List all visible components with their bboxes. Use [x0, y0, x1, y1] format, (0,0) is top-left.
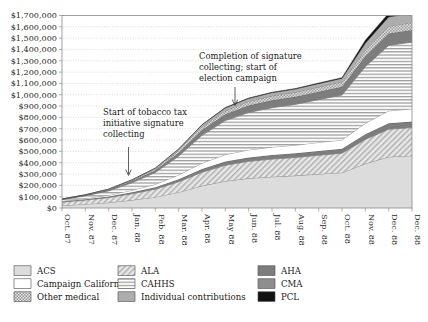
legend-label: ALA: [140, 266, 160, 276]
x-axis-label: Dec. 88: [413, 214, 423, 245]
legend-label: CAHHS: [141, 279, 175, 289]
y-axis-label: $500,000: [18, 146, 57, 156]
x-axis-labels: Oct. 87Nov. 87Dec. 87Jan. 88Feb. 88Mar. …: [63, 213, 423, 246]
x-axis-label: Oct. 88: [343, 214, 353, 244]
legend-label: ACS: [36, 266, 56, 276]
y-axis-label: $700,000: [18, 124, 57, 134]
x-axis-label: Sep. 88: [320, 214, 330, 245]
legend-label: Individual contributions: [141, 292, 246, 302]
x-axis-label: Jul. 88: [273, 213, 283, 241]
legend-label: AHA: [280, 266, 302, 276]
x-axis-label: Dec. 87: [110, 214, 120, 245]
y-axis-label: $1,600,000: [11, 22, 57, 32]
legend-item: CMA: [258, 279, 303, 289]
x-axis-label: Nov. 88: [367, 214, 377, 245]
legend: ACSCampaign CaliforniaOther medicalALACA…: [14, 266, 303, 302]
y-axis-label: $1,500,000: [11, 33, 57, 43]
legend-swatch-ala: [118, 266, 135, 276]
legend-item: ACS: [14, 266, 56, 276]
legend-swatch-cahhs: [118, 279, 135, 289]
legend-swatch-other-medical: [14, 292, 31, 302]
legend-label: PCL: [281, 292, 299, 302]
x-axis-label: Apr. 88: [203, 213, 213, 243]
y-axis-label: $1,100,000: [11, 78, 57, 88]
y-axis-label: $100,000: [18, 192, 57, 202]
x-axis-label: Feb. 88: [157, 214, 167, 245]
x-axis-ticks: [62, 208, 412, 212]
x-axis-label: Mar. 88: [180, 214, 190, 246]
y-axis-label: $1,700,000: [11, 10, 57, 20]
legend-item: Other medical: [14, 292, 99, 302]
legend-swatch-campaign-california: [14, 279, 31, 289]
y-axis-labels: $0$100,000$200,000$300,000$400,000$500,0…: [11, 10, 57, 213]
legend-item: AHA: [258, 266, 302, 276]
y-axis-label: $1,400,000: [11, 44, 57, 54]
legend-label: Campaign California: [37, 279, 127, 289]
legend-swatch-cma: [258, 279, 275, 289]
y-axis-label: $1,200,000: [11, 67, 57, 77]
figure-container: $0$100,000$200,000$300,000$400,000$500,0…: [0, 0, 428, 322]
legend-item: CAHHS: [118, 279, 175, 289]
y-axis-label: $800,000: [18, 112, 57, 122]
x-axis-label: Nov. 87: [87, 214, 97, 245]
y-axis-label: $300,000: [18, 169, 57, 179]
x-axis-label: Dec. 88: [390, 214, 400, 245]
legend-swatch-acs: [14, 266, 31, 276]
legend-label: CMA: [281, 279, 303, 289]
annotation-signature-start-line2: initiative signature: [103, 118, 184, 128]
annotation-signature-start-line3: collecting: [103, 129, 145, 139]
y-axis-ticks: [59, 16, 62, 209]
x-axis-label: Jan. 88: [133, 213, 143, 243]
y-axis-label: $200,000: [18, 180, 57, 190]
x-axis-label: Oct. 87: [63, 214, 73, 244]
legend-item: Individual contributions: [118, 292, 246, 302]
legend-swatch-individual-contributions: [118, 292, 135, 302]
legend-item: Campaign California: [14, 279, 127, 289]
y-axis-label: $900,000: [18, 101, 57, 111]
legend-swatch-pcl: [258, 292, 275, 302]
legend-swatch-aha: [258, 266, 275, 276]
annotation-campaign-start-line1: Completion of signature: [199, 51, 302, 61]
annotation-signature-start-line1: Start of tobacco tax: [103, 107, 187, 117]
y-axis-label: $1,300,000: [11, 56, 57, 66]
y-axis-label: $400,000: [18, 158, 57, 168]
y-axis-label: $0: [47, 203, 57, 213]
x-axis-label: Aug. 88: [297, 213, 307, 246]
annotation-campaign-start-line2: collecting; start of: [199, 62, 278, 72]
y-axis-label: $1,000,000: [11, 90, 57, 100]
legend-label: Other medical: [37, 292, 99, 302]
annotation-campaign-start-line3: election campaign: [199, 73, 277, 83]
y-axis-label: $600,000: [18, 135, 57, 145]
stacked-area-chart: $0$100,000$200,000$300,000$400,000$500,0…: [0, 0, 428, 322]
legend-item: PCL: [258, 292, 299, 302]
x-axis-label: May 88: [227, 214, 237, 245]
legend-item: ALA: [118, 266, 160, 276]
x-axis-label: Jun. 88: [250, 213, 260, 243]
